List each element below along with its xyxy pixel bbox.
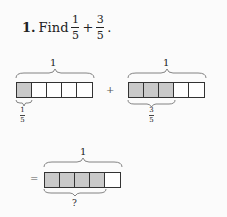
- fraction-strip-second: [128, 82, 205, 98]
- strip-cell: [90, 173, 105, 187]
- fraction-strip-first: [16, 82, 93, 98]
- strip-cell: [174, 83, 189, 97]
- numerator: 3: [97, 14, 104, 25]
- whole-label: 1: [80, 146, 86, 157]
- strip-cell: [47, 83, 62, 97]
- plus-sign: +: [106, 84, 114, 95]
- part-label-second: 35: [149, 107, 154, 124]
- strip-cell: [32, 83, 47, 97]
- denominator: 5: [97, 30, 104, 41]
- whole-brace-icon: [16, 69, 94, 79]
- strip-cell: [77, 83, 92, 97]
- strip-cell: [45, 173, 60, 187]
- problem-number: 1.: [22, 20, 36, 35]
- fraction-a: 1 5: [71, 14, 79, 41]
- fraction-strip-result: [44, 172, 121, 188]
- problem-statement: 1. Find 1 5 + 3 5 .: [22, 14, 112, 41]
- equals-sign: =: [30, 173, 38, 184]
- strip-cell: [60, 173, 75, 187]
- strip-cell: [189, 83, 204, 97]
- plus-operator: +: [82, 20, 93, 35]
- strip-cell: [159, 83, 174, 97]
- whole-label: 1: [163, 57, 169, 68]
- part-brace-icon: [44, 189, 106, 197]
- whole-brace-icon: [44, 158, 122, 168]
- strip-cell: [144, 83, 159, 97]
- problem-prompt: Find: [39, 20, 69, 35]
- denominator: 5: [72, 30, 79, 41]
- strip-cell: [17, 83, 32, 97]
- strip-cell: [75, 173, 90, 187]
- part-label-first: 15: [20, 107, 25, 124]
- strip-cell: [62, 83, 77, 97]
- strip-cell: [129, 83, 144, 97]
- period: .: [107, 20, 111, 35]
- fraction-b: 3 5: [96, 14, 104, 41]
- whole-label: 1: [50, 57, 56, 68]
- whole-brace-icon: [128, 69, 206, 79]
- unknown-answer-label: ?: [72, 198, 77, 208]
- numerator: 1: [72, 14, 79, 25]
- strip-cell: [105, 173, 120, 187]
